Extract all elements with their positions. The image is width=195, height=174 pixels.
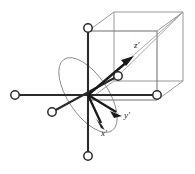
- coordinate-axes-diagram: z' y' x': [0, 0, 195, 174]
- node-top: [84, 24, 92, 32]
- node-back-upper: [114, 72, 122, 80]
- arrow-y-prime-head: [110, 111, 122, 118]
- node-front-lower: [48, 108, 56, 116]
- cube-body-diagonal-secondary: [118, 12, 183, 76]
- node-bottom: [84, 152, 92, 160]
- label-x-prime: x': [100, 128, 108, 138]
- node-left: [11, 91, 19, 99]
- node-right: [153, 91, 161, 99]
- label-y-prime: y': [123, 110, 131, 120]
- label-z-prime: z': [133, 40, 141, 50]
- figure-container: z' y' x': [0, 0, 195, 174]
- cube-wireframe: [88, 12, 183, 100]
